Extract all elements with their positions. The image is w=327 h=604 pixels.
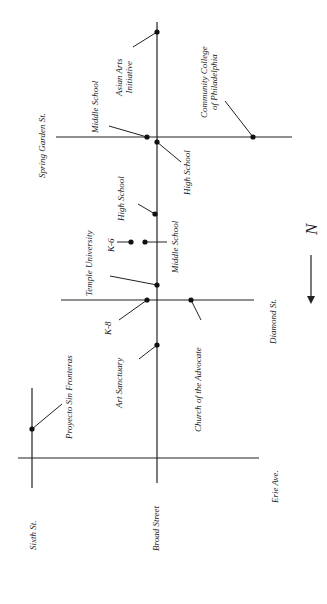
street-label-spring-garden: Spring Garden St. <box>37 113 47 178</box>
marker-community-college <box>225 101 256 140</box>
street-label-broad: Broad Street <box>151 506 161 551</box>
label-k8: K-8 <box>103 322 113 336</box>
label-high-school-sg: High School <box>182 150 192 195</box>
street-label-erie: Erie Ave. <box>270 470 280 503</box>
label-proyecto: Proyecto Sin Fronteras <box>64 355 74 439</box>
marker-proyecto <box>29 404 62 432</box>
marker-high-school-sg <box>154 139 181 162</box>
street-label-diamond: Diamond St. <box>268 299 278 344</box>
label-middle-school-2: Middle School <box>170 221 180 273</box>
marker-church <box>188 297 201 320</box>
label-asian-arts: Asian Arts Initiative <box>114 58 134 96</box>
label-temple: Temple University <box>84 231 94 296</box>
label-community-college-line1: Community College <box>199 46 209 118</box>
marker-asian-arts <box>133 29 160 47</box>
compass-north-label: N <box>302 224 322 235</box>
label-asian-arts-line2: Initiative <box>124 58 134 96</box>
label-k6: K-6 <box>106 239 116 253</box>
marker-k8 <box>119 297 150 320</box>
label-middle-school-sg: Middle School <box>90 81 100 133</box>
label-art-sanctuary: Art Sanctuary <box>114 358 124 408</box>
street-label-sixth: Sixth St. <box>28 521 38 551</box>
north-arrow-icon <box>307 255 315 304</box>
marker-middle-school-2 <box>142 239 167 244</box>
marker-temple <box>110 276 160 288</box>
label-community-college: Community College of Philadelphia <box>199 46 219 118</box>
label-high-school-2: High School <box>116 176 126 221</box>
label-asian-arts-line1: Asian Arts <box>114 58 124 96</box>
marker-high-school-2 <box>138 204 158 217</box>
label-community-college-line2: of Philadelphia <box>209 46 219 118</box>
label-church: Church of the Advocate <box>193 347 203 432</box>
marker-k6 <box>117 239 134 244</box>
